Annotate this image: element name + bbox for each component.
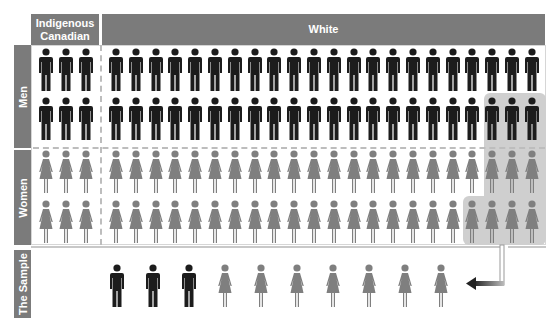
woman-icon bbox=[78, 200, 94, 244]
man-icon bbox=[108, 97, 124, 141]
woman-icon bbox=[167, 150, 183, 194]
gender-divider bbox=[33, 147, 545, 149]
man-icon bbox=[207, 48, 223, 92]
header-indigenous-label: Indigenous Canadian bbox=[31, 17, 99, 43]
man-icon bbox=[247, 48, 263, 92]
woman-icon bbox=[365, 200, 381, 244]
man-icon bbox=[524, 48, 540, 92]
sample-woman-icon bbox=[361, 264, 377, 308]
woman-icon bbox=[326, 200, 342, 244]
sample-man-icon bbox=[145, 264, 161, 308]
woman-icon bbox=[128, 200, 144, 244]
woman-icon bbox=[207, 150, 223, 194]
woman-icon bbox=[385, 150, 401, 194]
sample-arrow-icon bbox=[460, 240, 510, 292]
woman-icon bbox=[38, 200, 54, 244]
man-icon bbox=[247, 97, 263, 141]
man-icon bbox=[346, 48, 362, 92]
man-icon bbox=[187, 97, 203, 141]
man-icon bbox=[385, 48, 401, 92]
sample-woman-icon bbox=[289, 264, 305, 308]
man-icon bbox=[128, 48, 144, 92]
man-icon bbox=[306, 48, 322, 92]
man-icon bbox=[405, 48, 421, 92]
woman-icon bbox=[425, 150, 441, 194]
man-icon bbox=[38, 97, 54, 141]
man-icon bbox=[78, 97, 94, 141]
woman-icon bbox=[227, 150, 243, 194]
woman-icon bbox=[445, 200, 461, 244]
woman-icon bbox=[187, 200, 203, 244]
man-icon bbox=[464, 48, 480, 92]
man-icon bbox=[148, 48, 164, 92]
woman-icon bbox=[128, 150, 144, 194]
header-white: White bbox=[102, 14, 545, 45]
woman-icon bbox=[78, 150, 94, 194]
man-icon bbox=[266, 48, 282, 92]
header-indigenous-canadian: Indigenous Canadian bbox=[31, 14, 99, 45]
man-icon bbox=[78, 48, 94, 92]
woman-icon bbox=[266, 150, 282, 194]
sample-woman-icon bbox=[433, 264, 449, 308]
woman-icon bbox=[425, 200, 441, 244]
man-icon bbox=[365, 48, 381, 92]
woman-icon bbox=[524, 200, 540, 244]
row-label-women: Women bbox=[14, 150, 31, 245]
header-white-label: White bbox=[309, 23, 339, 36]
man-icon bbox=[445, 48, 461, 92]
man-icon bbox=[286, 97, 302, 141]
woman-icon bbox=[464, 150, 480, 194]
woman-icon bbox=[108, 200, 124, 244]
man-icon bbox=[524, 97, 540, 141]
woman-icon bbox=[148, 200, 164, 244]
woman-icon bbox=[445, 150, 461, 194]
women-label: Women bbox=[17, 178, 29, 218]
man-icon bbox=[405, 97, 421, 141]
woman-icon bbox=[227, 200, 243, 244]
sample-label: The Sample bbox=[17, 253, 29, 315]
woman-icon bbox=[464, 200, 480, 244]
row-label-men: Men bbox=[14, 45, 31, 148]
sample-woman-icon bbox=[217, 264, 233, 308]
man-icon bbox=[326, 97, 342, 141]
woman-icon bbox=[306, 150, 322, 194]
man-icon bbox=[385, 97, 401, 141]
sample-divider bbox=[31, 246, 501, 248]
man-icon bbox=[445, 97, 461, 141]
men-label: Men bbox=[17, 86, 29, 108]
sample-woman-icon bbox=[397, 264, 413, 308]
man-icon bbox=[58, 48, 74, 92]
woman-icon bbox=[207, 200, 223, 244]
man-icon bbox=[128, 97, 144, 141]
man-icon bbox=[425, 97, 441, 141]
woman-icon bbox=[405, 200, 421, 244]
man-icon bbox=[167, 48, 183, 92]
woman-icon bbox=[187, 150, 203, 194]
woman-icon bbox=[247, 200, 263, 244]
man-icon bbox=[464, 97, 480, 141]
man-icon bbox=[504, 48, 520, 92]
woman-icon bbox=[504, 150, 520, 194]
woman-icon bbox=[266, 200, 282, 244]
man-icon bbox=[108, 48, 124, 92]
man-icon bbox=[484, 97, 500, 141]
woman-icon bbox=[167, 200, 183, 244]
sample-woman-icon bbox=[325, 264, 341, 308]
man-icon bbox=[148, 97, 164, 141]
woman-icon bbox=[148, 150, 164, 194]
man-icon bbox=[346, 97, 362, 141]
man-icon bbox=[187, 48, 203, 92]
woman-icon bbox=[346, 150, 362, 194]
woman-icon bbox=[108, 150, 124, 194]
group-divider bbox=[100, 45, 102, 245]
woman-icon bbox=[326, 150, 342, 194]
woman-icon bbox=[306, 200, 322, 244]
man-icon bbox=[286, 48, 302, 92]
woman-icon bbox=[58, 200, 74, 244]
woman-icon bbox=[484, 200, 500, 244]
woman-icon bbox=[365, 150, 381, 194]
woman-icon bbox=[346, 200, 362, 244]
woman-icon bbox=[504, 200, 520, 244]
woman-icon bbox=[286, 150, 302, 194]
man-icon bbox=[266, 97, 282, 141]
